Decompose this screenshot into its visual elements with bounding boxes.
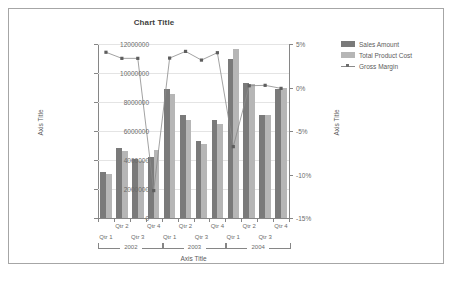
y-axis-tick-label-secondary: 5% — [296, 41, 326, 48]
gross-margin-marker[interactable] — [168, 56, 171, 59]
y-axis-tick-label-primary: 6000000 — [89, 128, 149, 135]
x-axis-tick — [98, 218, 99, 222]
x-axis-group-label: 2003 — [184, 244, 206, 250]
x-axis-group-label: 2004 — [247, 244, 269, 250]
y-axis-tick-label-secondary: -10% — [296, 171, 326, 178]
x-axis-tick-label: Qtr 3 — [125, 234, 151, 240]
x-axis-tick — [146, 218, 147, 222]
x-axis-tick-label: Qtr 1 — [220, 234, 246, 240]
y-axis-tick-label-primary: 10000000 — [89, 70, 149, 77]
gross-margin-marker[interactable] — [104, 51, 107, 54]
y-axis-tick-primary — [94, 102, 98, 103]
y-axis-tick-label-primary: 12000000 — [89, 41, 149, 48]
gross-margin-marker[interactable] — [120, 57, 123, 60]
gross-margin-marker[interactable] — [136, 57, 139, 60]
legend-item[interactable]: Sales Amount — [341, 39, 441, 49]
x-axis-tick-label: Qtr 4 — [141, 223, 167, 229]
x-axis-tick-label: Qtr 1 — [93, 234, 119, 240]
gross-margin-marker[interactable] — [184, 50, 187, 53]
y-axis-tick-label-primary: 4000000 — [89, 157, 149, 164]
x-axis-tick-label: Qtr 2 — [109, 223, 135, 229]
x-axis-tick-label: Qtr 2 — [173, 223, 199, 229]
y-axis-tick-secondary — [289, 88, 293, 89]
gross-margin-marker[interactable] — [264, 84, 267, 87]
x-axis-tick — [209, 218, 210, 222]
legend-label: Total Product Cost — [359, 52, 412, 59]
y-axis-tick-primary — [94, 73, 98, 74]
gross-margin-marker[interactable] — [200, 58, 203, 61]
line-marker-icon — [341, 63, 355, 69]
legend-item[interactable]: Total Product Cost — [341, 50, 441, 60]
y-axis-tick-label-primary: 8000000 — [89, 99, 149, 106]
y-axis-tick-label-secondary: -5% — [296, 128, 326, 135]
chart-title: Chart Title — [9, 18, 299, 27]
legend-label: Sales Amount — [359, 41, 399, 48]
x-axis-tick — [225, 218, 226, 222]
y-axis-tick-primary — [94, 44, 98, 45]
gross-margin-marker[interactable] — [248, 84, 251, 87]
x-axis-tick — [114, 218, 115, 222]
y-axis-tick-secondary — [289, 175, 293, 176]
x-axis-tick — [273, 218, 274, 222]
y-axis-tick-secondary — [289, 44, 293, 45]
x-axis-tick — [241, 218, 242, 222]
x-axis-tick — [257, 218, 258, 222]
y-axis-title-primary: Axis Title — [37, 88, 44, 158]
y-axis-tick-primary — [94, 131, 98, 132]
x-axis-group-label: 2002 — [120, 244, 142, 250]
x-axis-tick-label: Qtr 4 — [268, 223, 294, 229]
color-swatch-icon — [341, 41, 355, 47]
x-axis-tick-label: Qtr 3 — [252, 234, 278, 240]
gross-margin-marker[interactable] — [216, 51, 219, 54]
x-axis-tick-label: Qtr 4 — [204, 223, 230, 229]
y-axis-tick-secondary — [289, 131, 293, 132]
x-axis-title: Axis Title — [98, 255, 289, 262]
x-axis-tick — [130, 218, 131, 222]
x-axis-tick-label: Qtr 1 — [157, 234, 183, 240]
chart-frame: Chart Title Axis Title Axis Title Axis T… — [8, 8, 444, 264]
x-axis-tick — [162, 218, 163, 222]
legend-label: Gross Margin — [359, 63, 398, 70]
x-axis-tick — [178, 218, 179, 222]
legend-item[interactable]: Gross Margin — [341, 61, 441, 71]
x-axis-tick-label: Qtr 2 — [236, 223, 262, 229]
x-axis-tick-label: Qtr 3 — [188, 234, 214, 240]
x-axis-tick — [289, 218, 290, 222]
gross-margin-marker[interactable] — [232, 145, 235, 148]
gross-margin-marker[interactable] — [152, 189, 155, 192]
y-axis-tick-primary — [94, 160, 98, 161]
y-axis-title-secondary: Axis Title — [333, 88, 340, 158]
y-axis-tick-label-primary: 2000000 — [89, 186, 149, 193]
gross-margin-marker[interactable] — [279, 87, 282, 90]
chart-legend[interactable]: Sales AmountTotal Product CostGross Marg… — [341, 39, 441, 72]
y-axis-tick-primary — [94, 189, 98, 190]
color-swatch-icon — [341, 52, 355, 58]
y-axis-tick-label-secondary: -15% — [296, 215, 326, 222]
y-axis-tick-label-secondary: 0% — [296, 84, 326, 91]
x-axis-tick — [194, 218, 195, 222]
